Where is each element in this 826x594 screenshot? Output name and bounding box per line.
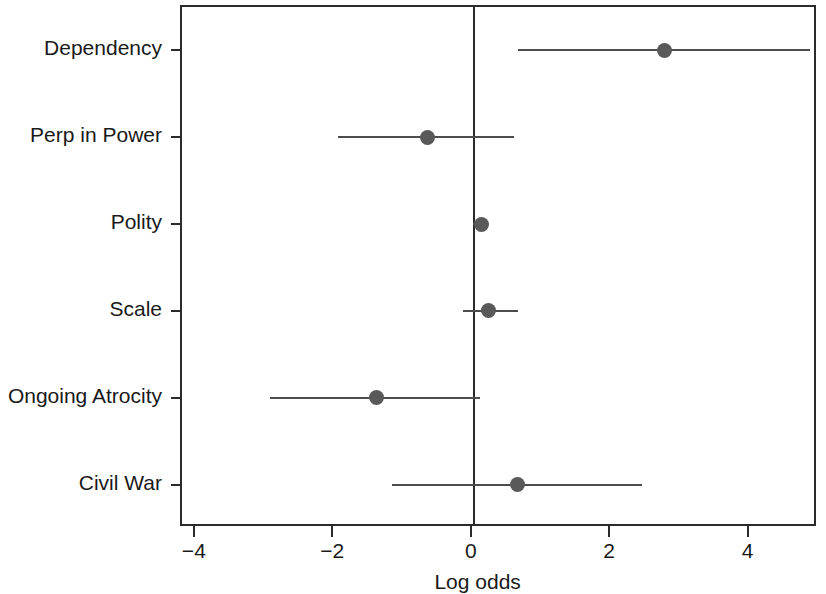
plot-area (180, 5, 816, 526)
y-axis-tick-label: Civil War (79, 471, 162, 495)
x-axis-tick (608, 526, 610, 537)
estimate-point (369, 390, 384, 405)
y-axis-tick (171, 484, 182, 486)
y-axis-tick (171, 397, 182, 399)
zero-reference-line (473, 7, 475, 524)
x-axis-tick (470, 526, 472, 537)
x-axis-title-label: Log odds (434, 570, 520, 594)
estimate-point (420, 130, 435, 145)
x-axis-tick-label: −2 (320, 539, 344, 563)
y-axis-tick-label: Scale (109, 297, 162, 321)
y-axis-tick-label: Polity (111, 210, 162, 234)
estimate-point (657, 43, 672, 58)
x-axis: Log odds −4−2024 (180, 526, 816, 592)
estimate-point (474, 217, 489, 232)
y-axis-tick-label: Dependency (44, 36, 162, 60)
x-axis-tick (747, 526, 749, 537)
estimate-point (481, 303, 496, 318)
y-axis-tick-label: Perp in Power (30, 123, 162, 147)
y-axis-labels: DependencyPerp in PowerPolityScaleOngoin… (0, 5, 166, 526)
estimate-point (510, 477, 525, 492)
y-axis-tick (171, 49, 182, 51)
x-axis-tick-label: 4 (742, 539, 754, 563)
x-axis-tick (193, 526, 195, 537)
x-axis-tick-label: −4 (182, 539, 206, 563)
x-axis-tick-label: 0 (465, 539, 477, 563)
y-axis-tick (171, 310, 182, 312)
y-axis-tick (171, 136, 182, 138)
y-axis-tick (171, 223, 182, 225)
x-axis-tick (331, 526, 333, 537)
x-axis-tick-label: 2 (603, 539, 615, 563)
y-axis-tick-label: Ongoing Atrocity (8, 384, 162, 408)
